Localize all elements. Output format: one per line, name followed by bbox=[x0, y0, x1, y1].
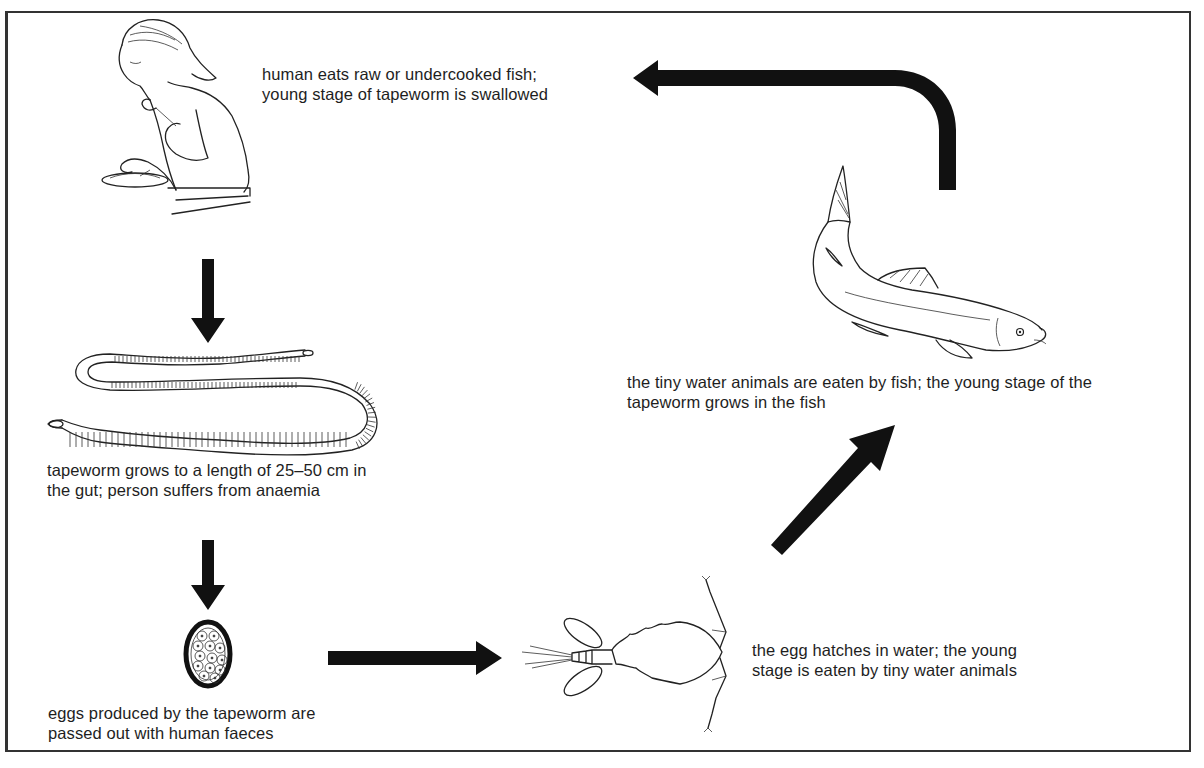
label-line: tapeworm grows in the fish bbox=[627, 392, 1092, 412]
egg-cell-nucleus bbox=[213, 635, 215, 637]
egg-cell-nucleus bbox=[221, 659, 223, 661]
tapeworm-segment bbox=[367, 407, 375, 409]
tapeworm-segment bbox=[355, 382, 358, 390]
egg-cell-nucleus bbox=[199, 655, 201, 657]
adult-tapeworm-illustration bbox=[48, 350, 377, 455]
label-line: stage is eaten by tiny water animals bbox=[752, 660, 1017, 680]
arrow-egg-to-water-animal bbox=[328, 641, 502, 675]
egg-cell-nucleus bbox=[219, 669, 221, 671]
tapeworm-segment bbox=[362, 390, 368, 396]
tapeworm-segment bbox=[367, 425, 375, 427]
label-eaten-by-fish: the tiny water animals are eaten by fish… bbox=[627, 372, 1092, 412]
label-line: the egg hatches in water; the young bbox=[752, 640, 1017, 660]
arrow-human-to-tapeworm bbox=[191, 259, 225, 343]
label-line: human eats raw or undercooked fish; bbox=[262, 64, 548, 84]
label-eggs-passed-out: eggs produced by the tapeworm are passed… bbox=[48, 703, 315, 743]
egg-cell-nucleus bbox=[209, 645, 211, 647]
egg-cell-nucleus bbox=[197, 645, 199, 647]
fish-illustration bbox=[813, 166, 1046, 358]
tapeworm-segment bbox=[368, 421, 376, 422]
label-line: the tiny water animals are eaten by fish… bbox=[627, 372, 1092, 392]
tapeworm-segment bbox=[366, 428, 373, 432]
egg-cell-nucleus bbox=[203, 675, 205, 677]
tapeworm-segment bbox=[365, 432, 372, 436]
label-line: eggs produced by the tapeworm are bbox=[48, 703, 315, 723]
tapeworm-segment bbox=[361, 437, 366, 443]
tapeworm-segment bbox=[359, 440, 363, 447]
label-human-eats-fish: human eats raw or undercooked fish; youn… bbox=[262, 64, 548, 104]
egg-cell-nucleus bbox=[214, 677, 216, 679]
egg-cell-nucleus bbox=[209, 667, 211, 669]
label-tapeworm-grows: tapeworm grows to a length of 25–50 cm i… bbox=[47, 460, 367, 500]
egg-cell-nucleus bbox=[201, 635, 203, 637]
tapeworm-segment bbox=[364, 394, 370, 399]
tapeworm-egg-illustration bbox=[186, 622, 230, 686]
arrow-water-animal-to-fish bbox=[771, 425, 895, 555]
egg-cell-nucleus bbox=[197, 665, 199, 667]
label-line: the gut; person suffers from anaemia bbox=[47, 480, 367, 500]
egg-cell-nucleus bbox=[211, 657, 213, 659]
label-line: young stage of tapeworm is swallowed bbox=[262, 84, 548, 104]
copepod-illustration bbox=[522, 576, 726, 732]
label-line: tapeworm grows to a length of 25–50 cm i… bbox=[47, 460, 367, 480]
tapeworm-segment bbox=[360, 387, 365, 393]
arrow-fish-to-human bbox=[633, 60, 956, 190]
tapeworm-segment bbox=[363, 435, 369, 440]
tapeworm-segment bbox=[357, 384, 361, 391]
label-line: passed out with human faeces bbox=[48, 723, 315, 743]
person-eating-fish-illustration bbox=[102, 20, 250, 214]
label-egg-hatches: the egg hatches in water; the young stag… bbox=[752, 640, 1017, 680]
egg-cell-nucleus bbox=[219, 647, 221, 649]
arrow-tapeworm-to-egg bbox=[191, 540, 225, 610]
